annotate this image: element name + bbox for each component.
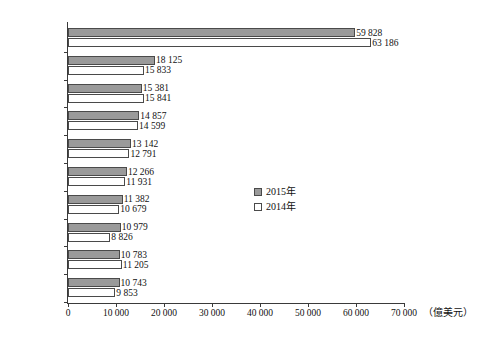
bar-value-label: 63 186 — [372, 38, 398, 48]
x-axis-tick — [116, 303, 117, 307]
bar-value-label: 10 783 — [121, 250, 147, 260]
legend-swatch-icon — [254, 188, 262, 196]
bar-2014: 11 205 — [68, 260, 122, 269]
bar-value-label: 11 382 — [124, 194, 150, 204]
bar-2015: 14 857 — [68, 111, 139, 120]
bar-2015: 13 142 — [68, 139, 131, 148]
bar-2015: 10 743 — [68, 278, 120, 287]
x-axis-tick-label: 10 000 — [103, 308, 129, 319]
bar-value-label: 9 853 — [116, 288, 137, 298]
bar-2014: 12 791 — [68, 149, 129, 158]
chart-row: 法國13 14212 791 — [68, 135, 404, 163]
bar-value-label: 10 979 — [122, 222, 148, 232]
bar-value-label: 8 826 — [111, 232, 132, 242]
x-axis-tick — [212, 303, 213, 307]
bar-value-label: 10 679 — [120, 204, 146, 214]
bar-2015: 15 381 — [68, 84, 142, 93]
chart-row: 香港14 85714 599 — [68, 107, 404, 135]
x-axis-tick-label: 20 000 — [151, 308, 177, 319]
bar-value-label: 14 857 — [140, 111, 166, 121]
bar-chart: 美國59 82863 186德國18 12515 833英國15 38115 8… — [0, 0, 487, 340]
bar-2014: 63 186 — [68, 38, 371, 47]
bar-value-label: 18 125 — [156, 55, 182, 65]
chart-legend: 2015年2014年 — [254, 185, 296, 215]
bar-value-label: 12 266 — [128, 167, 154, 177]
x-axis-tick-label: 40 000 — [247, 308, 273, 319]
legend-item[interactable]: 2015年 — [254, 185, 296, 198]
chart-row: 英國15 38115 841 — [68, 80, 404, 108]
bar-value-label: 11 205 — [123, 260, 149, 270]
legend-item[interactable]: 2014年 — [254, 200, 296, 213]
bar-value-label: 10 743 — [121, 278, 147, 288]
legend-swatch-icon — [254, 203, 262, 211]
bar-2014: 14 599 — [68, 121, 138, 130]
bar-value-label: 13 142 — [132, 139, 158, 149]
bar-2014: 15 841 — [68, 94, 144, 103]
x-axis-tick — [260, 303, 261, 307]
chart-row: 美國59 82863 186 — [68, 24, 404, 52]
bar-2015: 10 979 — [68, 223, 121, 232]
chart-row: 中國內地10 9798 826 — [68, 219, 404, 247]
x-axis-tick-label: 70 000 — [391, 308, 417, 319]
bar-value-label: 59 828 — [356, 28, 382, 38]
x-axis-tick-label: 30 000 — [199, 308, 225, 319]
bar-value-label: 15 833 — [145, 65, 171, 75]
x-axis-tick-label: 50 000 — [295, 308, 321, 319]
bar-2015: 59 828 — [68, 28, 355, 37]
bar-2015: 18 125 — [68, 56, 155, 65]
plot-area: 美國59 82863 186德國18 12515 833英國15 38115 8… — [68, 24, 404, 302]
x-axis-unit-label: （億美元） — [423, 307, 473, 319]
clipped-caption-sliver — [24, 0, 274, 4]
x-axis-tick — [68, 303, 69, 307]
legend-label: 2015年 — [266, 185, 296, 198]
x-axis-tick — [164, 303, 165, 307]
x-axis-line — [67, 303, 404, 304]
chart-row: 日本12 26611 931 — [68, 163, 404, 191]
chart-row: 瑞士11 38210 679 — [68, 191, 404, 219]
legend-label: 2014年 — [266, 200, 296, 213]
bar-2014: 10 679 — [68, 205, 119, 214]
chart-row: 荷蘭10 7439 853 — [68, 274, 404, 302]
bar-value-label: 15 381 — [143, 83, 169, 93]
chart-row: 加拿大10 78311 205 — [68, 246, 404, 274]
chart-row: 德國18 12515 833 — [68, 52, 404, 80]
bar-value-label: 11 931 — [126, 177, 152, 187]
x-axis-tick — [308, 303, 309, 307]
bar-value-label: 12 791 — [130, 149, 156, 159]
x-axis-tick — [404, 303, 405, 307]
bar-value-label: 15 841 — [145, 93, 171, 103]
x-axis-tick-label: 0 — [66, 308, 71, 319]
bar-2014: 15 833 — [68, 66, 144, 75]
bar-2015: 10 783 — [68, 250, 120, 259]
bar-2015: 12 266 — [68, 167, 127, 176]
bar-value-label: 14 599 — [139, 121, 165, 131]
x-axis-tick-label: 60 000 — [343, 308, 369, 319]
bar-2015: 11 382 — [68, 195, 123, 204]
bar-2014: 9 853 — [68, 288, 115, 297]
bar-2014: 11 931 — [68, 177, 125, 186]
x-axis-tick — [356, 303, 357, 307]
bar-2014: 8 826 — [68, 233, 110, 242]
